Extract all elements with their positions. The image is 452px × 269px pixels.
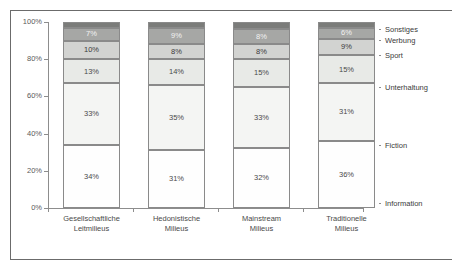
legend-item-label[interactable]: Sport <box>385 52 403 60</box>
bar-column[interactable]: 34%33%13%10%7% <box>63 22 120 208</box>
y-tick-mark <box>44 134 48 135</box>
bar-segment[interactable]: 31% <box>318 83 375 141</box>
bar-segment[interactable]: 36% <box>318 141 375 208</box>
y-tick-label: 0% <box>2 204 42 212</box>
bar-segment[interactable]: 15% <box>318 55 375 83</box>
legend-leader-line <box>379 145 381 146</box>
y-tick-label: 60% <box>2 92 42 100</box>
bar-segment-value-label: 33% <box>254 114 269 122</box>
figure-frame: 0%20%40%60%80%100% 34%33%13%10%7%31%35%1… <box>0 0 452 269</box>
bar-segment[interactable] <box>63 22 120 28</box>
bar-segment[interactable]: 33% <box>63 83 120 144</box>
bar-segment[interactable] <box>148 22 205 28</box>
bar-segment-value-label: 31% <box>339 108 354 116</box>
bar-segment-value-label: 6% <box>341 29 352 37</box>
bar-segment[interactable] <box>318 22 375 28</box>
bar-column[interactable]: 32%33%15%8%8% <box>233 22 290 208</box>
x-tick-mark <box>48 208 49 212</box>
bar-segment[interactable]: 34% <box>63 145 120 208</box>
legend-item-label[interactable]: Werbung <box>385 37 415 45</box>
bar-segment[interactable]: 10% <box>63 41 120 60</box>
bar-segment-value-label: 8% <box>256 48 267 56</box>
bar-segment[interactable]: 31% <box>148 150 205 208</box>
x-category-label-line: Milieus <box>297 224 397 234</box>
x-tick-mark <box>218 208 219 212</box>
bar-segment[interactable]: 7% <box>63 28 120 41</box>
bar-segment-value-label: 32% <box>254 174 269 182</box>
y-tick-label: 80% <box>2 55 42 63</box>
bar-segment[interactable]: 32% <box>233 148 290 208</box>
bar-segment-value-label: 31% <box>169 175 184 183</box>
legend-item-label[interactable]: Information <box>385 200 423 208</box>
y-tick-label: 100% <box>2 18 42 26</box>
bar-segment-value-label: 14% <box>169 68 184 76</box>
legend-item-label[interactable]: Sonstiges <box>385 26 418 34</box>
legend-leader-line <box>379 40 381 41</box>
bar-segment-value-label: 35% <box>169 114 184 122</box>
y-tick-mark <box>44 59 48 60</box>
bar-segment-value-label: 15% <box>254 69 269 77</box>
x-category-label-line: Traditionelle <box>297 214 397 224</box>
y-tick-mark <box>44 22 48 23</box>
bar-segment-value-label: 13% <box>84 68 99 76</box>
bar-segment-value-label: 15% <box>339 66 354 74</box>
bar-segment[interactable]: 14% <box>148 59 205 85</box>
x-axis-line <box>48 208 363 209</box>
bar-segment[interactable] <box>233 22 290 29</box>
bar-segment[interactable]: 8% <box>233 29 290 44</box>
legend-leader-line <box>379 55 381 56</box>
legend-leader-line <box>379 87 381 88</box>
y-tick-label: 20% <box>2 167 42 175</box>
bar-segment-value-label: 7% <box>86 30 97 38</box>
bar-segment[interactable]: 6% <box>318 28 375 39</box>
bar-segment-value-label: 9% <box>171 32 182 40</box>
bar-segment-value-label: 33% <box>84 110 99 118</box>
x-tick-mark <box>133 208 134 212</box>
bar-segment[interactable]: 8% <box>233 44 290 59</box>
bar-segment[interactable]: 35% <box>148 85 205 150</box>
bar-segment[interactable]: 8% <box>148 44 205 59</box>
bar-segment[interactable]: 15% <box>233 59 290 87</box>
y-axis-line <box>48 22 49 208</box>
stacked-bar-chart: 0%20%40%60%80%100% 34%33%13%10%7%31%35%1… <box>0 0 452 269</box>
x-tick-mark <box>303 208 304 212</box>
bar-segment-value-label: 36% <box>339 171 354 179</box>
bar-segment-value-label: 8% <box>171 48 182 56</box>
bar-segment[interactable]: 9% <box>148 28 205 45</box>
legend-leader-line <box>379 29 381 30</box>
bar-segment[interactable]: 13% <box>63 59 120 83</box>
bar-segment-value-label: 34% <box>84 173 99 181</box>
bar-segment-value-label: 10% <box>84 46 99 54</box>
x-tick-mark <box>363 208 364 212</box>
bar-segment-value-label: 8% <box>256 33 267 41</box>
y-tick-label: 40% <box>2 130 42 138</box>
legend-leader-line <box>379 203 381 204</box>
bar-column[interactable]: 36%31%15%9%6% <box>318 22 375 208</box>
x-category-label: TraditionelleMilieus <box>297 214 397 233</box>
y-tick-mark <box>44 96 48 97</box>
bar-segment-value-label: 9% <box>341 43 352 51</box>
bar-segment[interactable]: 9% <box>318 39 375 56</box>
legend-item-label[interactable]: Fiction <box>385 142 407 150</box>
legend-item-label[interactable]: Unterhaltung <box>385 84 428 92</box>
bar-segment[interactable]: 33% <box>233 87 290 148</box>
y-tick-mark <box>44 171 48 172</box>
bar-column[interactable]: 31%35%14%8%9% <box>148 22 205 208</box>
